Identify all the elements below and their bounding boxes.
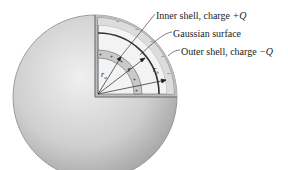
diagram-canvas: + + + + + + − − − − − ra r rb [0,0,288,170]
svg-text:−: − [135,26,139,32]
gaussian-surface-label: Gaussian surface [173,29,241,39]
svg-text:+: + [135,87,138,93]
svg-text:+: + [133,76,136,82]
svg-text:−: − [116,18,120,24]
spherical-shells-diagram: + + + + + + − − − − − ra r rb [0,0,288,170]
svg-text:−: − [161,53,165,59]
outer-shell-label: Outer shell, charge −Q [181,47,273,57]
inner-shell-label: Inner shell, charge +Q [156,11,246,21]
svg-text:+: + [110,53,113,59]
svg-text:+: + [99,51,102,57]
svg-text:−: − [167,70,171,76]
